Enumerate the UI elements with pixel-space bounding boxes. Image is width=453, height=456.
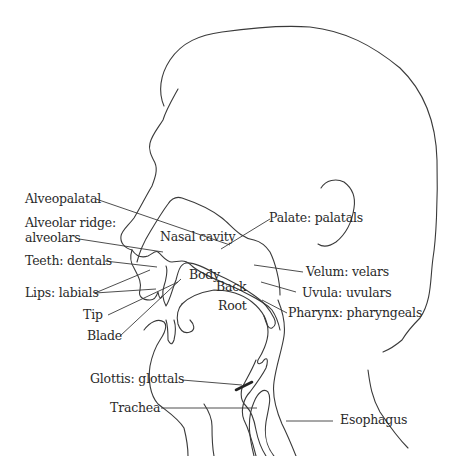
label-trachea: Trachea (110, 401, 160, 415)
label-alveopalatal: Alveopalatal (25, 192, 101, 206)
leader-uvula (261, 282, 296, 292)
label-tip: Tip (83, 308, 103, 322)
label-alveolars: alveolars (25, 231, 80, 245)
label-lips: Lips: labials (25, 286, 99, 300)
leader-glottis (182, 380, 242, 385)
label-back: Back (216, 280, 246, 294)
label-teeth: Teeth: dentals (25, 254, 112, 268)
label-root: Root (218, 299, 247, 313)
label-velum: Velum: velars (306, 265, 389, 279)
leader-pharynx (262, 300, 287, 313)
tongue-outline (182, 290, 268, 456)
head-outline (161, 26, 438, 352)
label-alveolar-ridge: Alveolar ridge: (25, 216, 116, 230)
label-glottis: Glottis: glottals (90, 372, 184, 386)
label-blade: Blade (87, 329, 122, 343)
vocal-tract-diagram: Nasal cavity Alveopalatal Alveolar ridge… (0, 0, 453, 456)
label-palate: Palate: palatals (269, 211, 363, 225)
pharynx-wall (273, 300, 296, 456)
leader-tip (108, 282, 178, 315)
leader-blade (120, 279, 181, 336)
leader-velum (254, 265, 303, 272)
lower-lip (144, 320, 188, 456)
label-uvula: Uvula: uvulars (302, 286, 392, 300)
trachea-front (204, 404, 214, 456)
label-esophagus: Esophagus (340, 413, 407, 427)
label-pharynx: Pharynx: pharyngeals (288, 306, 422, 320)
face-profile (121, 89, 178, 250)
label-nasal-cavity: Nasal cavity (160, 230, 235, 244)
